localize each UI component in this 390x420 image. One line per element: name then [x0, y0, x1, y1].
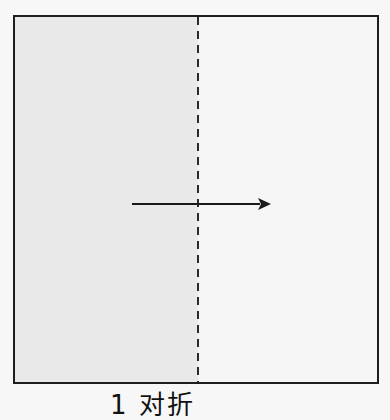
step-caption: 1 对折 — [110, 392, 195, 418]
arrow-right-icon — [132, 197, 272, 211]
paper-square — [13, 15, 379, 384]
